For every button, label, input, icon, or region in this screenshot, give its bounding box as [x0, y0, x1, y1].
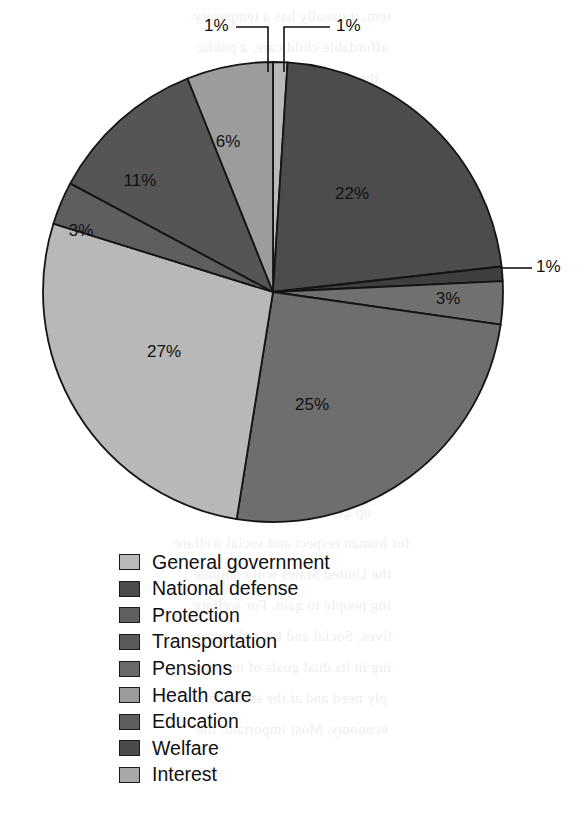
legend-swatch-icon [119, 661, 140, 677]
legend-item-label: Protection [152, 606, 240, 626]
legend-swatch-icon [119, 687, 140, 703]
legend-swatch-icon [119, 581, 140, 597]
slice-callout-label: 1% [204, 16, 229, 35]
slice-callout-label: 1% [336, 16, 361, 35]
legend-item-label: Health care [152, 686, 252, 706]
legend-item[interactable]: Education [119, 709, 330, 736]
slice-callout-label: 1% [536, 257, 561, 276]
legend-item-label: Pensions [152, 659, 232, 679]
legend-item-label: Education [152, 712, 239, 732]
slice-value-label: 27% [147, 342, 181, 361]
slice-value-label: 6% [216, 132, 241, 151]
legend-swatch-icon [119, 767, 140, 783]
legend-item[interactable]: Health care [119, 682, 330, 709]
legend-item[interactable]: Protection [119, 602, 330, 629]
legend-swatch-icon [119, 634, 140, 650]
legend-swatch-icon [119, 740, 140, 756]
legend-swatch-icon [119, 607, 140, 623]
legend-item[interactable]: Pensions [119, 655, 330, 682]
legend-swatch-icon [119, 554, 140, 570]
slice-value-label: 11% [124, 171, 157, 190]
slice-value-label: 22% [335, 184, 369, 203]
pie-slices-group [43, 62, 503, 522]
legend-item[interactable]: National defense [119, 576, 330, 603]
pie-slice-pensions[interactable] [237, 292, 501, 522]
legend-item-label: National defense [152, 579, 298, 599]
legend-item-label: Interest [152, 765, 217, 785]
slice-value-label: 25% [295, 395, 329, 414]
legend-item[interactable]: General government [119, 549, 330, 576]
legend-item[interactable]: Interest [119, 762, 330, 789]
chart-legend: General governmentNational defenseProtec… [119, 549, 330, 788]
legend-item[interactable]: Transportation [119, 629, 330, 656]
pie-slice-national-defense[interactable] [273, 62, 502, 292]
slice-value-label: 3% [436, 289, 461, 308]
legend-item-label: Welfare [152, 739, 219, 759]
legend-swatch-icon [119, 714, 140, 730]
legend-item-label: General government [152, 553, 330, 573]
legend-item-label: Transportation [152, 632, 277, 652]
legend-item[interactable]: Welfare [119, 735, 330, 762]
slice-value-label: 3% [69, 221, 94, 240]
